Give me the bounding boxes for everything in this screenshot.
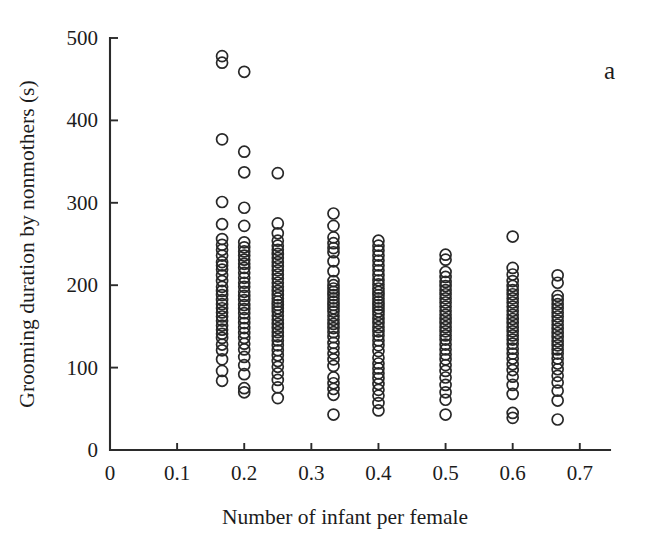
x-axis-title: Number of infant per female: [222, 505, 468, 529]
data-point: [328, 360, 339, 371]
data-point: [217, 196, 228, 207]
data-point: [552, 277, 563, 288]
data-point: [217, 219, 228, 230]
y-tick-label: 0: [88, 438, 99, 462]
y-tick-label: 100: [67, 356, 99, 380]
data-point: [272, 168, 283, 179]
x-tick-label: 0: [105, 461, 116, 485]
x-tick-label: 0.3: [298, 461, 324, 485]
data-point: [272, 382, 283, 393]
data-point: [373, 405, 384, 416]
panel-label-a: a: [604, 57, 615, 84]
data-point: [440, 409, 451, 420]
data-point: [239, 146, 250, 157]
data-point: [440, 394, 451, 405]
data-point: [328, 220, 339, 231]
data-point: [217, 57, 228, 68]
y-tick-label: 200: [67, 273, 99, 297]
data-points-layer: [217, 51, 564, 425]
data-point: [552, 414, 563, 425]
data-point: [239, 66, 250, 77]
y-tick-label: 300: [67, 191, 99, 215]
data-point: [507, 231, 518, 242]
data-point: [239, 202, 250, 213]
y-axis-ticks: [110, 38, 118, 368]
axes-layer: [110, 38, 610, 450]
x-tick-label: 0.2: [231, 461, 257, 485]
x-tick-label: 0.4: [365, 461, 392, 485]
x-tick-label: 0.5: [432, 461, 458, 485]
data-point: [328, 208, 339, 219]
data-point: [328, 409, 339, 420]
axis-lines: [110, 38, 610, 450]
data-point: [272, 393, 283, 404]
scatter-plot-figure: 00.10.20.30.40.50.60.70100200300400500 a…: [0, 0, 667, 552]
x-tick-label: 0.7: [567, 461, 593, 485]
y-tick-label: 400: [67, 108, 99, 132]
data-point: [239, 167, 250, 178]
x-tick-label: 0.6: [500, 461, 526, 485]
plot-canvas: 00.10.20.30.40.50.60.70100200300400500 a…: [0, 0, 667, 552]
data-point: [217, 134, 228, 145]
x-tick-label: 0.1: [164, 461, 190, 485]
data-point: [239, 220, 250, 231]
y-axis-title: Grooming duration by nonmothers (s): [15, 80, 39, 407]
y-tick-label: 500: [67, 26, 99, 50]
